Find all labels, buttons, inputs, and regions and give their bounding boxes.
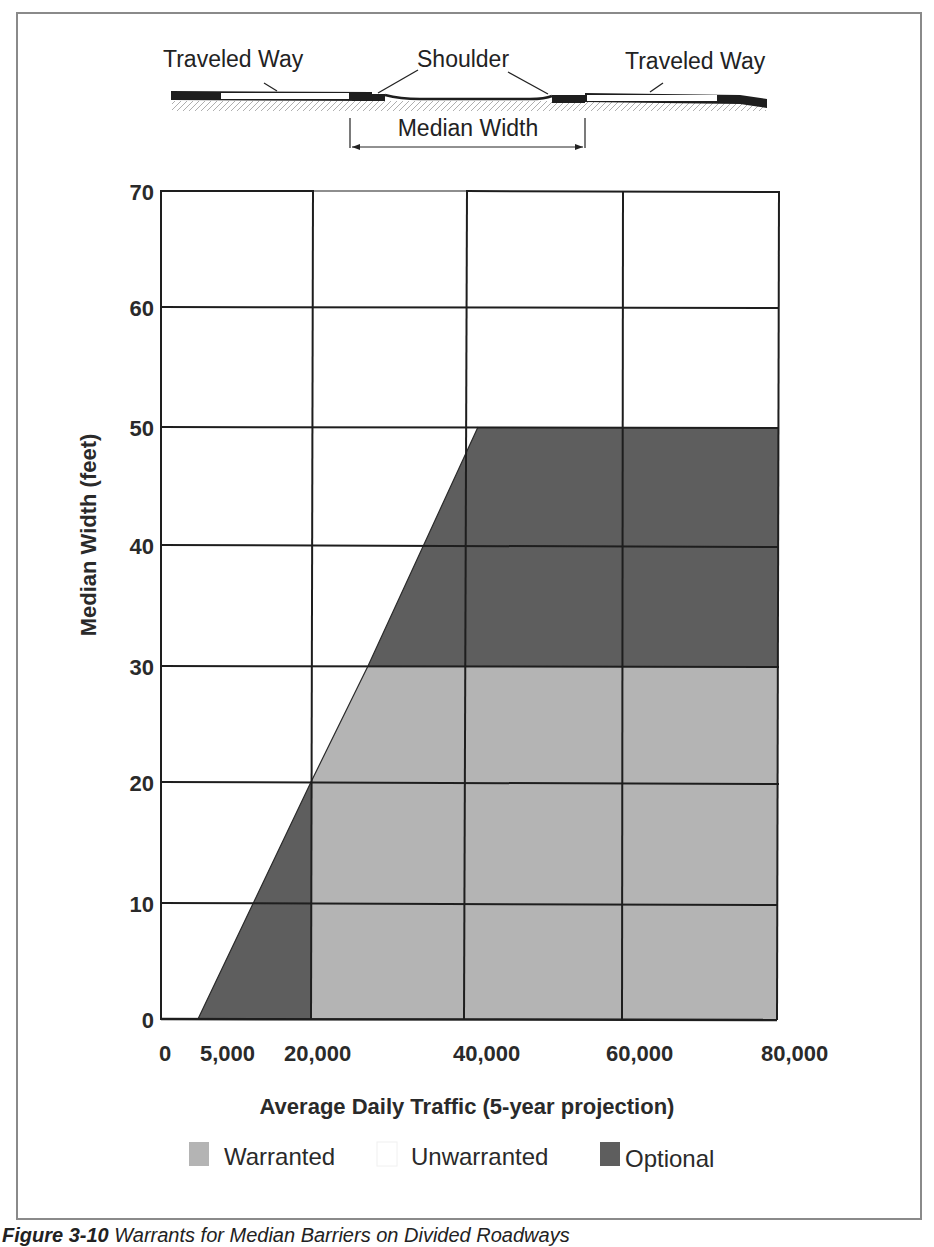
x-axis-title: Average Daily Traffic (5-year projection… <box>260 1094 675 1119</box>
chart-plot: 0 10 20 30 40 50 60 70 0 5,000 20,000 40… <box>76 180 828 1119</box>
median-dim-arrow-right <box>575 144 583 150</box>
y-tick: 0 <box>142 1008 154 1033</box>
caption-text: Warrants for Median Barriers on Divided … <box>114 1224 569 1246</box>
x-tick: 80,000 <box>761 1041 828 1066</box>
legend: Warranted Unwarranted Optional <box>189 1142 714 1172</box>
traveled-way-right-label: Traveled Way <box>625 48 766 74</box>
x-tick: 60,000 <box>606 1041 673 1066</box>
y-tick-labels: 0 10 20 30 40 50 60 70 <box>130 180 154 1033</box>
x-tick-labels: 0 5,000 20,000 40,000 60,000 80,000 <box>159 1041 828 1066</box>
median-surface <box>385 95 552 99</box>
caption-label: Figure 3-10 <box>2 1224 109 1246</box>
legend-swatch-warranted <box>189 1142 209 1166</box>
y-tick: 10 <box>130 892 154 917</box>
x-tick: 40,000 <box>453 1041 520 1066</box>
legend-swatch-optional <box>600 1142 620 1166</box>
left-travel-lane <box>221 93 349 99</box>
y-tick: 50 <box>130 416 154 441</box>
y-tick: 60 <box>130 296 154 321</box>
median-width-label: Median Width <box>398 115 539 141</box>
median-dim-arrow-left <box>352 144 360 150</box>
shoulder-label: Shoulder <box>417 46 509 72</box>
shoulder-right-arrow <box>508 72 548 94</box>
y-tick: 40 <box>130 534 154 559</box>
legend-swatch-unwarranted <box>377 1142 397 1166</box>
region-warranted <box>311 666 777 1019</box>
y-axis-title: Median Width (feet) <box>76 434 101 637</box>
right-shoulder <box>552 95 585 103</box>
y-tick: 20 <box>130 771 154 796</box>
legend-label-unwarranted: Unwarranted <box>411 1143 548 1170</box>
figure-caption: Figure 3-10 Warrants for Median Barriers… <box>2 1224 570 1247</box>
x-tick: 0 <box>159 1041 171 1066</box>
shoulder-left-arrow <box>378 70 418 93</box>
legend-label-warranted: Warranted <box>224 1143 335 1170</box>
right-travel-lane <box>587 95 717 101</box>
left-shoulder <box>352 94 385 101</box>
traveled-way-left-label: Traveled Way <box>163 46 304 72</box>
x-tick: 5,000 <box>200 1041 255 1066</box>
traveled-way-left-arrow <box>264 83 277 91</box>
cross-section-diagram: Traveled Way Shoulder Traveled Way Media… <box>163 46 767 150</box>
x-tick: 20,000 <box>284 1041 351 1066</box>
legend-label-optional: Optional <box>625 1145 714 1172</box>
y-tick: 70 <box>130 180 154 205</box>
traveled-way-right-arrow <box>650 83 663 92</box>
y-tick: 30 <box>130 655 154 680</box>
